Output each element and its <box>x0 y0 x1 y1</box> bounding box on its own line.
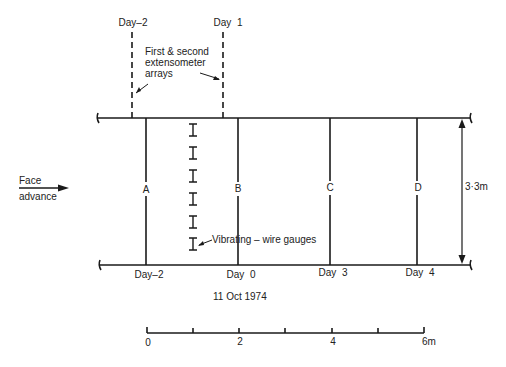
dimension-arrowhead-top <box>459 119 466 128</box>
leader-arrowhead-gauges <box>198 241 204 246</box>
section-label-d: D <box>414 182 421 193</box>
label-day-minus-2-bottom: Day–2 <box>135 269 164 280</box>
date-label: 11 Oct 1974 <box>213 291 267 302</box>
annotation-extensometer-line2: extensometer <box>145 57 206 68</box>
break-symbol-bottom-right <box>470 260 472 270</box>
gauges-label: Vibrating – wire gauges <box>212 234 316 245</box>
label-day-0: Day 0 <box>227 269 256 280</box>
face-advance-arrowhead <box>58 185 69 192</box>
vibrating-wire-gauges <box>189 124 197 250</box>
break-symbol-top-right <box>470 113 472 123</box>
label-day-minus-2-top: Day–2 <box>119 17 148 28</box>
section-label-b: B <box>235 183 242 194</box>
diagram-lines <box>0 0 506 367</box>
label-day-4: Day 4 <box>406 267 435 278</box>
scale-label-4: 4 <box>330 336 336 347</box>
label-day-3: Day 3 <box>319 267 348 278</box>
dimension-arrowhead-bottom <box>459 255 466 264</box>
section-label-c: C <box>326 182 333 193</box>
face-advance-label-line2: advance <box>19 191 57 202</box>
diagram-canvas: Day–2 Day 1 First & second extensometer … <box>0 0 506 367</box>
leader-arrowhead-1 <box>136 87 141 93</box>
section-label-a: A <box>143 184 150 195</box>
scale-label-2: 2 <box>237 336 243 347</box>
label-day-1-top: Day 1 <box>214 17 243 28</box>
scale-label-0: 0 <box>145 337 151 348</box>
leader-arrowhead-2 <box>213 76 220 80</box>
height-dimension-label: 3·3m <box>465 181 488 192</box>
scale-label-6m: 6m <box>422 336 436 347</box>
annotation-extensometer-line1: First & second <box>145 46 209 57</box>
annotation-extensometer-line3: arrays <box>145 68 173 79</box>
face-advance-label-line1: Face <box>19 175 41 186</box>
